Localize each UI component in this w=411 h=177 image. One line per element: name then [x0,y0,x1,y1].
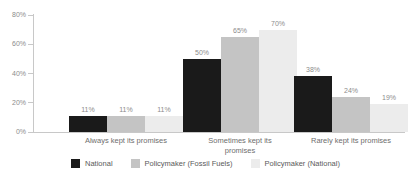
legend-item[interactable]: National [71,159,113,168]
bar-group [183,15,297,132]
bar [294,76,332,132]
x-axis-category-label: Rarely kept its promises [270,136,411,146]
y-axis-tick-label: 80% [0,11,26,18]
bar [107,116,145,132]
y-axis-tick-label: 40% [0,70,26,77]
bar [69,116,107,132]
y-axis-tick-label: 0% [0,128,26,135]
bar [145,116,183,132]
bar-group [69,15,183,132]
x-axis-baseline [33,132,405,133]
bar [183,59,221,132]
legend-label: National [85,160,113,168]
y-axis-tick-label: 20% [0,99,26,106]
legend-label: Policymaker (Fossil Fuels) [145,160,233,168]
bar [259,30,297,132]
bar [332,97,370,132]
legend-label: Policymaker (National) [265,160,340,168]
bar [370,104,408,132]
y-axis-spine [33,14,34,133]
legend-swatch-icon [251,159,260,168]
bar-group [294,15,408,132]
legend-item[interactable]: Policymaker (Fossil Fuels) [131,159,233,168]
legend-swatch-icon [71,159,80,168]
legend-item[interactable]: Policymaker (National) [251,159,340,168]
chart-legend: NationalPolicymaker (Fossil Fuels)Policy… [0,159,411,168]
grouped-bar-chart: 0%20%40%60%80% 11%11%11%50%65%70%38%24%1… [0,0,411,177]
y-axis-tick-label: 60% [0,40,26,47]
legend-swatch-icon [131,159,140,168]
bar [221,37,259,132]
